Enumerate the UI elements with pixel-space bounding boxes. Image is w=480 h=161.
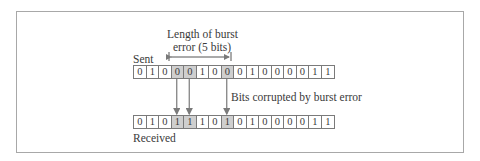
- burst-length-dimension-arrow: [169, 52, 231, 61]
- diagram-arrows: [0, 0, 480, 161]
- corruption-arrows: [177, 79, 227, 114]
